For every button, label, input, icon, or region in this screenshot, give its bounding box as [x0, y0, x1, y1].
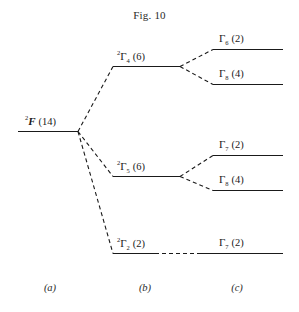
energy-level-diagram: Fig. 10 — [0, 0, 299, 312]
connector-gamma4-to-gamma8-upper — [180, 67, 213, 85]
level-degeneracy: (4) — [232, 174, 244, 185]
level-degeneracy: (2) — [133, 238, 145, 249]
level-label-gamma-8-upper: Γ8(4) — [219, 68, 244, 82]
level-subscript: 6 — [225, 39, 228, 46]
level-degeneracy: (4) — [232, 68, 244, 79]
level-label-gamma-6: Γ6(2) — [219, 33, 244, 47]
column-label-b: (b) — [125, 282, 165, 293]
level-degeneracy: (2) — [232, 139, 244, 150]
level-label-gamma-8-lower: Γ8(4) — [219, 174, 244, 188]
connector-gamma5-to-gamma7-upper — [180, 156, 213, 177]
column-label-c: (c) — [217, 282, 257, 293]
level-degeneracy: (14) — [39, 116, 57, 127]
level-symbol: F — [28, 115, 35, 127]
connector-2F-to-gamma4 — [78, 67, 113, 132]
column-label-a: (a) — [30, 282, 70, 293]
level-subscript: 8 — [225, 180, 228, 187]
level-subscript: 4 — [127, 57, 130, 64]
level-degeneracy: (2) — [232, 237, 244, 248]
level-subscript: 5 — [127, 167, 130, 174]
level-subscript: 7 — [225, 145, 228, 152]
level-degeneracy: (2) — [232, 33, 244, 44]
level-label-free-ion-2F: 2F(14) — [25, 115, 56, 127]
level-degeneracy: (6) — [133, 161, 145, 172]
level-subscript: 2 — [127, 244, 130, 251]
level-label-gamma-7-lower: Γ7(2) — [219, 237, 244, 251]
level-degeneracy: (6) — [133, 51, 145, 62]
level-subscript: 8 — [225, 74, 228, 81]
connector-gamma4-to-gamma6 — [180, 50, 213, 67]
connector-2F-to-gamma2 — [78, 132, 113, 254]
diagram-canvas — [0, 0, 299, 312]
connector-2F-to-gamma5 — [78, 132, 113, 177]
level-label-gamma-5: 2Γ5(6) — [117, 160, 145, 174]
level-subscript: 7 — [225, 243, 228, 250]
level-label-gamma-7-upper: Γ7(2) — [219, 139, 244, 153]
connector-gamma5-to-gamma8-lower — [180, 177, 213, 191]
level-label-gamma-2: 2Γ2(2) — [117, 237, 145, 251]
level-label-gamma-4: 2Γ4(6) — [117, 50, 145, 64]
